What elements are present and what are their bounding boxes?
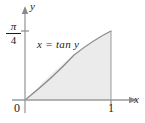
- plot-area: [0, 0, 145, 123]
- pi-numerator: π: [5, 21, 22, 32]
- x-axis-label: x: [134, 94, 139, 105]
- y-axis-label: y: [30, 1, 35, 12]
- pi-denominator: 4: [5, 35, 22, 46]
- y-tick-label-pi-over-four: π 4: [5, 21, 22, 46]
- y-axis-arrow-icon: [22, 6, 28, 14]
- x-tick-label-one: 1: [108, 102, 114, 114]
- curve-equation-label: x = tan y: [37, 39, 79, 50]
- graph-figure: y x 0 1 π 4 x = tan y: [0, 0, 145, 123]
- origin-label: 0: [14, 102, 20, 114]
